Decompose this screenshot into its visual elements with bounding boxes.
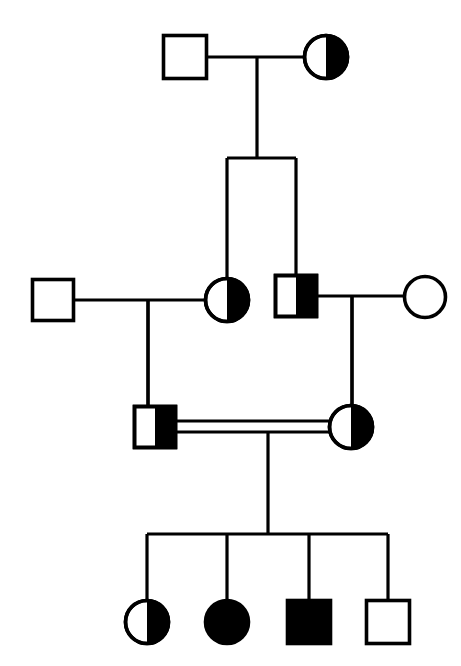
individual-I-2[interactable] [305,36,348,79]
individual-IV-1[interactable] [126,601,169,644]
individual-III-2[interactable] [330,406,373,449]
individual-II-1[interactable] [33,280,74,321]
symbol-square-unaffected[interactable] [33,280,74,321]
symbol-square-affected[interactable] [288,601,331,644]
individual-IV-3[interactable] [288,601,331,644]
individual-IV-4[interactable] [367,601,410,644]
symbol-square-unaffected[interactable] [164,36,207,79]
symbol-circle-affected[interactable] [206,601,249,644]
individual-IV-2[interactable] [206,601,249,644]
individual-II-3[interactable] [276,276,317,317]
chart-background [0,0,461,666]
individual-II-2[interactable] [206,279,249,322]
half-fill-right [296,276,317,317]
individual-I-1[interactable] [164,36,207,79]
symbol-square-unaffected[interactable] [367,601,410,644]
half-fill-right [155,407,176,448]
individual-II-4[interactable] [405,277,446,318]
pedigree-canvas [0,0,461,666]
pedigree-chart [0,0,461,666]
symbol-circle-unaffected[interactable] [405,277,446,318]
individual-III-1[interactable] [135,407,176,448]
